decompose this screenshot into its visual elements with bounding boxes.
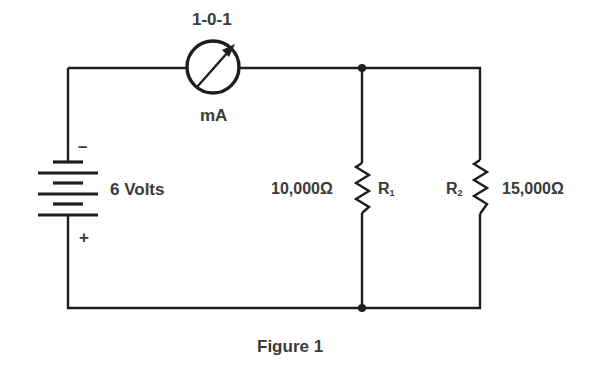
meter-range-label: 1-0-1	[192, 11, 232, 28]
r1-name-label: R1	[378, 181, 395, 198]
r2-name-label: R2	[446, 181, 463, 198]
meter-unit-label: mA	[200, 107, 227, 124]
battery-voltage-label: 6 Volts	[110, 181, 164, 198]
r1-value-label: 10,000Ω	[271, 181, 333, 197]
r2-value-label: 15,000Ω	[502, 181, 564, 197]
ammeter-icon	[187, 41, 239, 93]
r1-subscript: 1	[390, 188, 395, 198]
wire-top-right	[240, 68, 480, 160]
resistor-r2-icon	[474, 160, 487, 214]
r2-subscript: 2	[458, 188, 463, 198]
figure-caption: Figure 1	[257, 338, 323, 355]
battery-negative-label: –	[78, 138, 87, 155]
junction-top	[358, 64, 366, 72]
junction-bottom	[358, 304, 366, 312]
battery-icon	[38, 162, 98, 215]
battery-positive-label: +	[79, 229, 89, 246]
wire-left-bottom	[68, 214, 480, 308]
resistor-r1-icon	[356, 163, 369, 213]
